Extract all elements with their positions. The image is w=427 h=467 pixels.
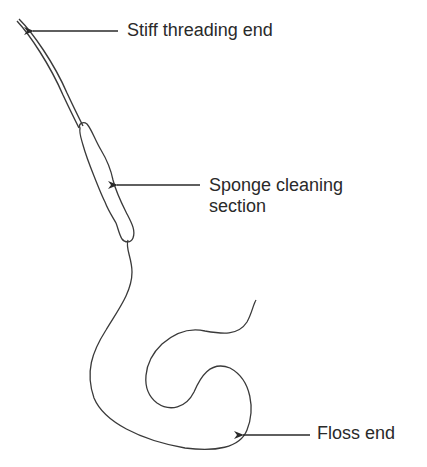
sponge-label-line-2: section <box>209 196 343 217</box>
floss-diagram <box>0 0 427 467</box>
stiff-threading-end-shape <box>17 19 83 128</box>
floss-strand <box>90 240 256 449</box>
sponge-cleaning-section-label: Sponge cleaning section <box>209 175 343 217</box>
sponge-section-shape <box>80 123 134 242</box>
sponge-label-line-1: Sponge cleaning <box>209 175 343 196</box>
floss-end-label: Floss end <box>317 423 395 444</box>
stiff-threading-end-label: Stiff threading end <box>127 20 273 41</box>
